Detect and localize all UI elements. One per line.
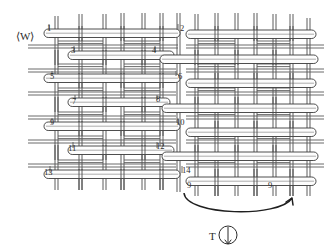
pick-label-7: 7: [72, 96, 76, 106]
takeup-label: T: [209, 230, 216, 242]
pick-label-12: 12: [156, 141, 165, 151]
pick-label-6: 6: [178, 71, 182, 81]
weft-pick-14: [186, 177, 316, 186]
weft-pick-7: [68, 98, 170, 107]
pick-label-8: 8: [156, 94, 160, 104]
rotation-arrow: [184, 193, 293, 212]
weft-pick-6: [186, 79, 316, 88]
takeup-symbol-group: T: [209, 226, 237, 244]
weft-pick-4: [160, 55, 318, 64]
weave-diagram-canvas: 1 3 5 7 9 11 13 2 4 6 8 10 12 14 9 9 ⟨W⟩: [0, 0, 330, 249]
weft-pick-3: [68, 51, 174, 60]
warp-direction-marker: ⟨W⟩: [16, 30, 34, 42]
pick-label-1: 1: [47, 23, 51, 33]
pick-label-5: 5: [50, 71, 54, 81]
edge-label-left-9: 9: [187, 180, 191, 190]
edge-label-right-9: 9: [268, 180, 272, 190]
pick-label-13: 13: [44, 167, 53, 177]
weft-pick-10: [186, 128, 316, 137]
pick-label-10: 10: [176, 117, 185, 127]
weft-pick-2: [186, 30, 316, 39]
pick-label-9: 9: [50, 117, 54, 127]
pick-label-3: 3: [71, 45, 75, 55]
pick-label-14: 14: [182, 165, 191, 175]
pick-label-2: 2: [180, 23, 184, 33]
corner-marker-label: ⟨W⟩: [16, 30, 34, 42]
weft-pick-8: [162, 104, 318, 113]
pick-label-11: 11: [68, 143, 76, 153]
weft-pick-12: [162, 152, 318, 161]
weave-diagram-figure: 1 3 5 7 9 11 13 2 4 6 8 10 12 14 9 9 ⟨W⟩: [0, 0, 330, 249]
